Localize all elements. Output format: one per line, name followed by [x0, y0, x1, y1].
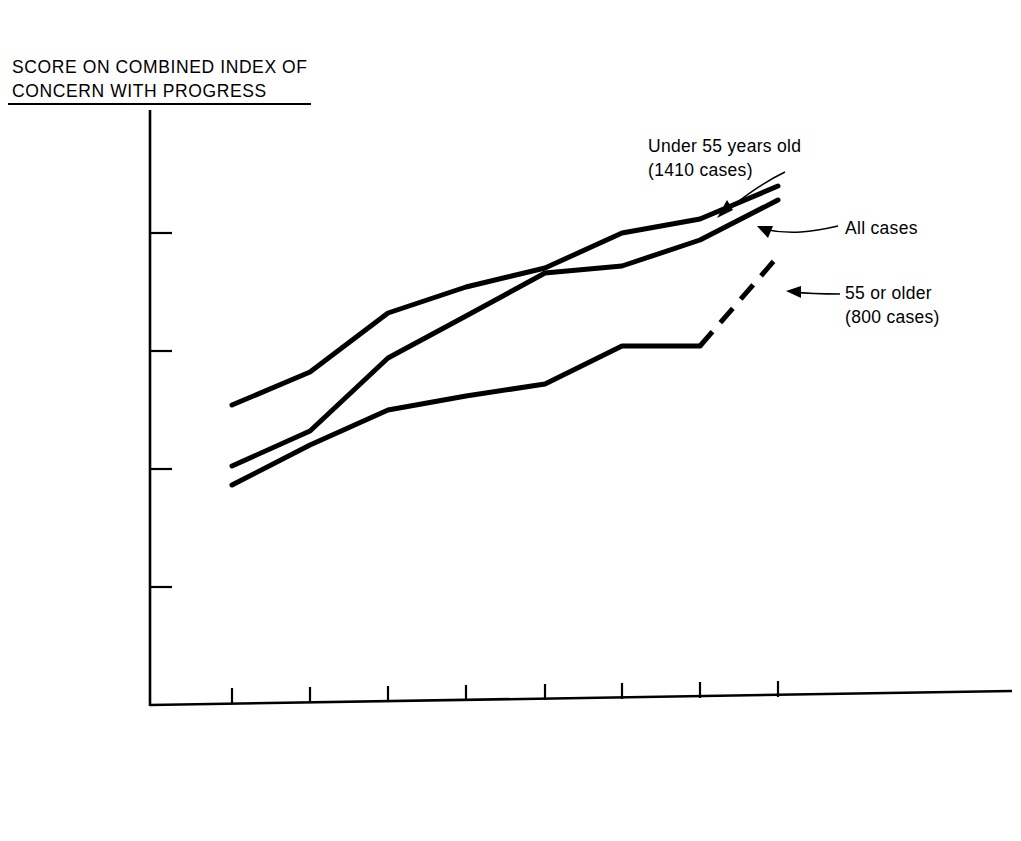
series-line-55-or-older: [232, 346, 700, 485]
x-tick-marks: [232, 681, 778, 704]
chart-plot-svg: [0, 0, 1021, 841]
leader-arrow-all-cases: [757, 226, 838, 238]
chart-container: SCORE ON COMBINED INDEX OF CONCERN WITH …: [0, 0, 1021, 841]
y-tick-marks: [150, 233, 172, 587]
leader-arrow-55-or-older: [786, 286, 840, 298]
series-line-all-cases: [232, 200, 778, 466]
series-line-55-or-older-dashed: [700, 254, 780, 346]
axis-lines: [150, 110, 1012, 706]
